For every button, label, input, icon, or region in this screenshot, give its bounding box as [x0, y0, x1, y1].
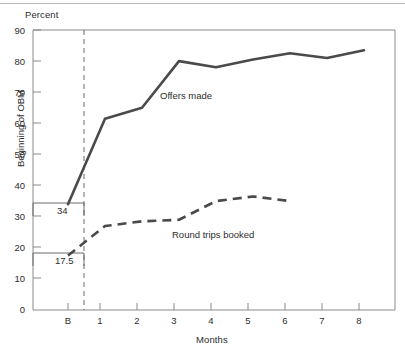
series-line-round-trips-booked	[68, 196, 290, 255]
baseline-value-label-offers: 34	[57, 205, 68, 216]
baseline-value-label-round-trips: 17.5	[55, 255, 74, 266]
series-label-round-trips-booked: Round trips booked	[172, 229, 254, 240]
obm-divider-label: Beginning of OBM	[15, 81, 26, 177]
chart-plot-area	[0, 0, 405, 356]
series-line-offers-made	[68, 50, 364, 204]
y-axis-ticks	[33, 30, 41, 278]
x-axis-ticks	[68, 303, 359, 310]
chart-figure: Percent Months 90 80 70 60 50 40 30 20 1…	[0, 0, 405, 356]
series-label-offers-made: Offers made	[160, 90, 212, 101]
plot-border	[33, 30, 395, 310]
plot-frame	[33, 30, 395, 310]
